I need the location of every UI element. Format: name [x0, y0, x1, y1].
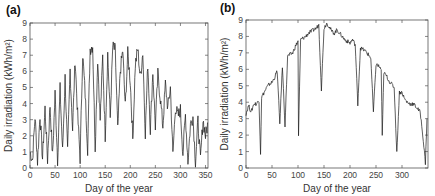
y-tick-label: 1: [238, 147, 243, 157]
x-tick-label: 100: [73, 170, 87, 180]
y-tick-label: 8: [238, 31, 243, 41]
y-tick-label: 9: [22, 18, 27, 28]
y-tick-label: 0: [22, 163, 27, 173]
y-tick-label: 5: [238, 81, 243, 91]
y-tick-label: 4: [238, 97, 243, 107]
x-tick-label: 150: [317, 170, 331, 180]
x-tick-label: 350: [198, 170, 212, 180]
y-tick-label: 2: [22, 131, 27, 141]
x-tick-label: 100: [291, 170, 305, 180]
y-axis-label: Daily irradiation (kWh/m²): [219, 38, 230, 151]
x-axis-label: Day of the year: [85, 183, 153, 194]
chart-panel-b: 0123456789050100150200250300Day of the y…: [219, 15, 428, 194]
x-tick-label: 0: [244, 170, 249, 180]
y-tick-label: 7: [22, 50, 27, 60]
y-tick-label: 5: [22, 82, 27, 92]
y-tick-label: 4: [22, 99, 27, 109]
x-tick-label: 250: [148, 170, 162, 180]
y-tick-label: 3: [238, 114, 243, 124]
x-tick-label: 50: [267, 170, 277, 180]
y-tick-label: 1: [22, 147, 27, 157]
x-tick-label: 200: [343, 170, 357, 180]
y-axis-label: Daily irradiation (kWh/m²): [3, 39, 14, 152]
x-tick-label: 50: [50, 170, 60, 180]
y-tick-label: 7: [238, 48, 243, 58]
x-tick-label: 150: [98, 170, 112, 180]
x-tick-label: 300: [395, 170, 409, 180]
y-tick-label: 9: [238, 15, 243, 25]
chart-canvas: 0123456789050100150200250300350Day of th…: [0, 0, 435, 196]
y-tick-label: 6: [238, 64, 243, 74]
y-tick-label: 3: [22, 115, 27, 125]
x-tick-label: 300: [173, 170, 187, 180]
x-tick-label: 0: [28, 170, 33, 180]
x-tick-label: 250: [369, 170, 383, 180]
x-tick-label: 200: [123, 170, 137, 180]
y-tick-label: 6: [22, 66, 27, 76]
chart-panel-a: 0123456789050100150200250300350Day of th…: [3, 18, 213, 194]
x-axis-label: Day of the year: [303, 183, 371, 194]
y-tick-label: 0: [238, 163, 243, 173]
y-tick-label: 2: [238, 130, 243, 140]
figure: (a) (b) 0123456789050100150200250300350D…: [0, 0, 435, 196]
y-tick-label: 8: [22, 34, 27, 44]
